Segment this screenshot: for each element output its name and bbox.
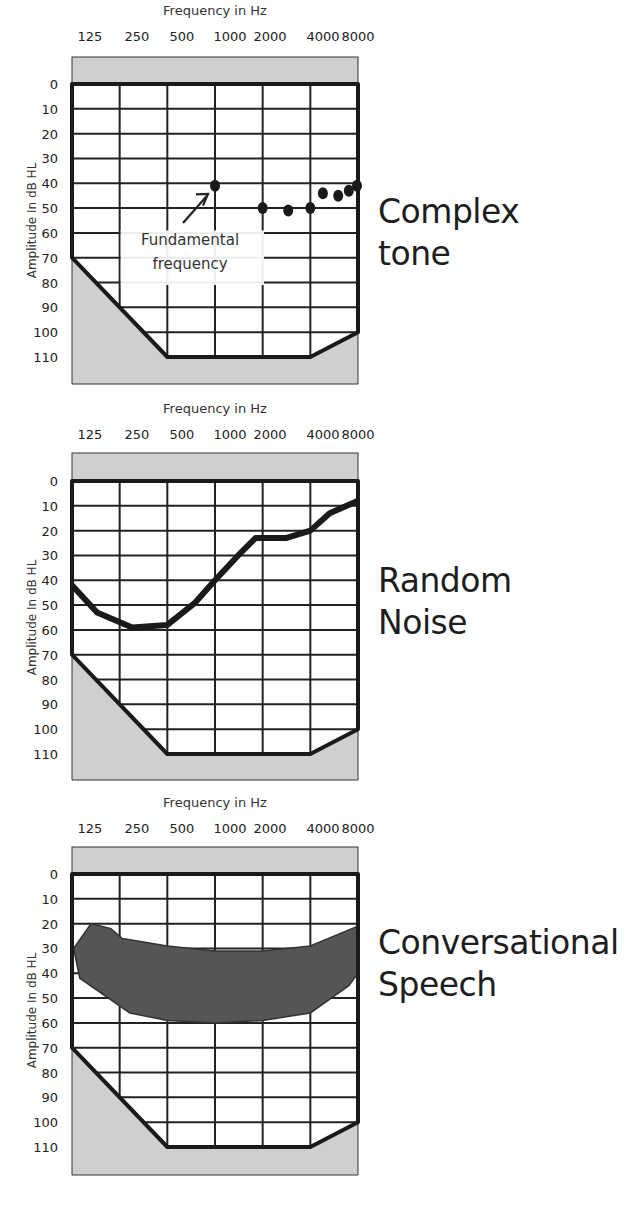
x-axis-title: Frequency in Hz [163, 401, 267, 416]
harmonic-dot [210, 180, 220, 192]
x-tick-label: 500 [170, 427, 195, 442]
y-tick-label: 40 [41, 966, 58, 981]
y-tick-label: 20 [41, 917, 58, 932]
label-line-2: Noise [378, 602, 512, 644]
x-tick-label: 2000 [253, 821, 286, 836]
x-tick-label: 125 [78, 821, 103, 836]
y-axis-title: Amplitude In dB HL [25, 162, 39, 278]
y-tick-label: 110 [33, 747, 58, 762]
x-tick-label: 4000 [306, 821, 339, 836]
y-tick-label: 30 [41, 151, 58, 166]
y-tick-label: 20 [41, 127, 58, 142]
y-tick-label: 110 [33, 350, 58, 365]
label-complex-tone: Complex tone [378, 191, 519, 275]
harmonic-dot [352, 180, 362, 192]
y-tick-label: 0 [50, 474, 58, 489]
y-tick-label: 0 [50, 77, 58, 92]
label-line-2: tone [378, 233, 519, 275]
y-tick-label: 70 [41, 648, 58, 663]
label-random-noise: Random Noise [378, 560, 512, 644]
harmonic-dot [283, 205, 293, 217]
x-tick-label: 250 [125, 29, 150, 44]
x-tick-label: 2000 [253, 29, 286, 44]
label-line-2: Speech [378, 964, 619, 1006]
panel-random-noise: Frequency in Hz1252505001000200040008000… [0, 395, 641, 790]
y-tick-label: 80 [41, 673, 58, 688]
x-tick-label: 1000 [213, 427, 246, 442]
x-tick-label: 500 [170, 821, 195, 836]
top-shaded-band [72, 57, 358, 84]
harmonic-dot [258, 202, 268, 214]
y-tick-label: 50 [41, 991, 58, 1006]
harmonic-dot [305, 202, 315, 214]
x-axis-title: Frequency in Hz [163, 3, 267, 18]
y-tick-label: 20 [41, 524, 58, 539]
y-tick-label: 40 [41, 573, 58, 588]
y-tick-label: 90 [41, 300, 58, 315]
x-tick-label: 2000 [253, 427, 286, 442]
x-tick-label: 1000 [213, 821, 246, 836]
x-tick-label: 1000 [213, 29, 246, 44]
top-shaded-band [72, 453, 358, 481]
harmonic-dot [333, 190, 343, 202]
y-tick-label: 0 [50, 867, 58, 882]
label-line-1: Complex [378, 191, 519, 233]
x-tick-label: 250 [125, 821, 150, 836]
y-tick-label: 100 [33, 722, 58, 737]
harmonic-dot [318, 187, 328, 199]
y-tick-label: 10 [41, 102, 58, 117]
y-tick-label: 30 [41, 941, 58, 956]
label-conversational-speech: Conversational Speech [378, 922, 619, 1006]
y-tick-label: 60 [41, 1016, 58, 1031]
y-axis-title: Amplitude In dB HL [25, 952, 39, 1068]
y-tick-label: 100 [33, 1115, 58, 1130]
y-tick-label: 90 [41, 1090, 58, 1105]
y-tick-label: 60 [41, 226, 58, 241]
annotation-text: Fundamental [141, 231, 239, 249]
x-tick-label: 8000 [341, 29, 374, 44]
top-shaded-band [72, 847, 358, 874]
panel-conversational-speech: Frequency in Hz1252505001000200040008000… [0, 790, 641, 1205]
x-tick-label: 8000 [341, 427, 374, 442]
x-tick-label: 125 [78, 29, 103, 44]
y-axis-title: Amplitude In dB HL [25, 559, 39, 675]
x-tick-label: 4000 [306, 427, 339, 442]
y-tick-label: 40 [41, 176, 58, 191]
y-tick-label: 80 [41, 1066, 58, 1081]
label-line-1: Random [378, 560, 512, 602]
x-axis-title: Frequency in Hz [163, 795, 267, 810]
y-tick-label: 90 [41, 697, 58, 712]
y-tick-label: 70 [41, 1041, 58, 1056]
chart-complex-tone: Frequency in Hz1252505001000200040008000… [0, 0, 641, 395]
annotation-text: frequency [152, 255, 227, 273]
y-tick-label: 60 [41, 623, 58, 638]
y-tick-label: 110 [33, 1140, 58, 1155]
y-tick-label: 100 [33, 325, 58, 340]
y-tick-label: 70 [41, 251, 58, 266]
x-tick-label: 500 [170, 29, 195, 44]
y-tick-label: 80 [41, 276, 58, 291]
x-tick-label: 125 [78, 427, 103, 442]
y-tick-label: 50 [41, 201, 58, 216]
x-tick-label: 8000 [341, 821, 374, 836]
y-tick-label: 10 [41, 892, 58, 907]
chart-random-noise: Frequency in Hz1252505001000200040008000… [0, 395, 641, 790]
panel-complex-tone: Frequency in Hz1252505001000200040008000… [0, 0, 641, 395]
y-tick-label: 30 [41, 548, 58, 563]
y-tick-label: 50 [41, 598, 58, 613]
label-line-1: Conversational [378, 922, 619, 964]
x-tick-label: 250 [125, 427, 150, 442]
y-tick-label: 10 [41, 499, 58, 514]
x-tick-label: 4000 [306, 29, 339, 44]
